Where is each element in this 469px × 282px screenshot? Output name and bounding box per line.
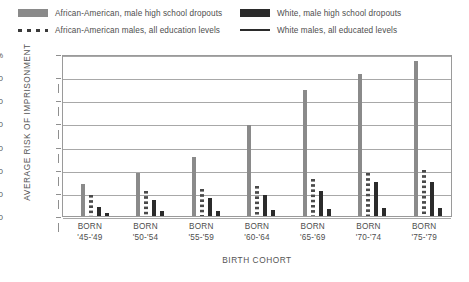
x-tick-label: BORN'70-'74 xyxy=(341,221,397,243)
bar-group xyxy=(229,56,284,216)
x-axis-title: BIRTH COHORT xyxy=(62,255,452,265)
bar xyxy=(97,207,101,216)
y-tick-minor-dash xyxy=(58,130,59,139)
bar-groups xyxy=(63,56,451,216)
bar xyxy=(311,179,315,216)
y-tick-label: 40 xyxy=(0,120,3,129)
x-tick-label: BORN'65-'69 xyxy=(285,221,341,243)
bar-group xyxy=(396,56,451,216)
bar-group xyxy=(118,56,173,216)
x-tick-label-line: '65-'69 xyxy=(285,232,341,243)
bar-group xyxy=(174,56,229,216)
x-tick-label-line: BORN xyxy=(62,221,118,232)
x-tick-label-line: '75-'79 xyxy=(396,232,452,243)
y-tick-label: 50 xyxy=(0,97,3,106)
x-axis-labels: BORN'45-'49BORN'50-'54BORN'55-'59BORN'60… xyxy=(62,221,452,243)
x-tick-label-line: '50-'54 xyxy=(118,232,174,243)
y-tick-label: 0 xyxy=(0,213,3,222)
chart-legend: African-American, male high school dropo… xyxy=(18,6,458,40)
legend-swatch-solid-gray-icon xyxy=(18,9,48,17)
y-tick-label: 30 xyxy=(0,143,3,152)
bar xyxy=(200,189,204,216)
x-tick-label-line: '55-'59 xyxy=(173,232,229,243)
bar-group xyxy=(340,56,395,216)
y-tick-mark xyxy=(56,78,61,79)
x-tick-label-line: BORN xyxy=(396,221,452,232)
y-tick-label: 10 xyxy=(0,189,3,198)
legend-item-white-dropouts: White, male high school dropouts xyxy=(240,6,401,20)
bar xyxy=(81,184,85,216)
x-tick-label-line: BORN xyxy=(118,221,174,232)
bar xyxy=(208,198,212,216)
legend-item-aa-dropouts: African-American, male high school dropo… xyxy=(18,6,222,20)
bar xyxy=(89,195,93,216)
bar xyxy=(152,200,156,216)
bar xyxy=(438,208,442,216)
legend-label: African-American, male high school dropo… xyxy=(55,9,222,18)
y-tick-mark xyxy=(56,217,61,218)
legend-label: African-American males, all education le… xyxy=(55,26,220,35)
x-tick-label: BORN'60-'64 xyxy=(229,221,285,243)
legend-label: White, male high school dropouts xyxy=(277,9,401,18)
gridline xyxy=(63,218,451,219)
x-tick-label: BORN'55-'59 xyxy=(173,221,229,243)
y-tick-mark xyxy=(56,148,61,149)
y-tick-label: 20 xyxy=(0,166,3,175)
bar xyxy=(192,157,196,216)
bar xyxy=(327,209,331,216)
bar-group xyxy=(285,56,340,216)
y-tick-label: 60 xyxy=(0,74,3,83)
bar xyxy=(263,195,267,216)
x-tick-label-line: '70-'74 xyxy=(341,232,397,243)
bar xyxy=(160,211,164,216)
bar-group xyxy=(63,56,118,216)
y-tick-minor-dash xyxy=(58,84,59,93)
legend-swatch-solid-black-icon xyxy=(240,9,270,17)
y-axis-title: AVERAGE RISK OF IMPRISONMENT xyxy=(22,37,32,207)
legend-item-white-all-education: White males, all educated levels xyxy=(240,23,397,37)
y-tick-mark xyxy=(56,171,61,172)
legend-swatch-dotted-icon xyxy=(18,26,48,34)
y-tick-minor-dash xyxy=(58,200,59,209)
y-tick-mark xyxy=(56,55,61,56)
bar xyxy=(430,182,434,216)
x-tick-label: BORN'45-'49 xyxy=(62,221,118,243)
y-tick-minor-dash xyxy=(58,223,59,232)
x-tick-label: BORN'50-'54 xyxy=(118,221,174,243)
bar xyxy=(247,125,251,216)
legend-swatch-line-icon xyxy=(240,26,270,34)
bar xyxy=(319,191,323,216)
x-tick-label-line: BORN xyxy=(229,221,285,232)
bar xyxy=(105,213,109,216)
y-tick-minor-dash xyxy=(58,177,59,186)
bar xyxy=(255,186,259,216)
x-tick-label-line: '45-'49 xyxy=(62,232,118,243)
legend-label: White males, all educated levels xyxy=(277,26,397,35)
bar xyxy=(414,61,418,216)
bar xyxy=(271,210,275,216)
x-tick-label-line: BORN xyxy=(341,221,397,232)
bar xyxy=(382,208,386,216)
x-tick-label-line: BORN xyxy=(173,221,229,232)
bar xyxy=(303,90,307,216)
x-tick-label-line: BORN xyxy=(285,221,341,232)
y-tick-mark xyxy=(56,124,61,125)
legend-item-aa-all-education: African-American males, all education le… xyxy=(18,23,220,37)
bar xyxy=(366,173,370,216)
bar xyxy=(136,173,140,216)
x-tick-label: BORN'75-'79 xyxy=(396,221,452,243)
bar xyxy=(144,191,148,216)
bar xyxy=(422,170,426,216)
bar xyxy=(374,182,378,216)
y-tick-minor-dash xyxy=(58,107,59,116)
y-tick-label: 70% xyxy=(0,51,3,60)
plot-area xyxy=(62,55,452,217)
bar xyxy=(358,74,362,216)
x-tick-label-line: '60-'64 xyxy=(229,232,285,243)
bar xyxy=(216,211,220,216)
y-tick-minor-dash xyxy=(58,154,59,163)
y-tick-mark xyxy=(56,194,61,195)
y-tick-mark xyxy=(56,101,61,102)
